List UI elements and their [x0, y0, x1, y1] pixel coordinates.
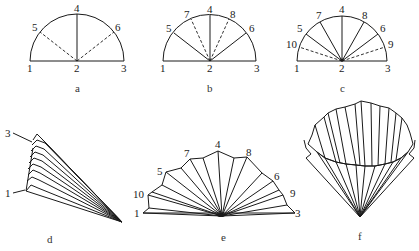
label-point-1: 1	[160, 62, 166, 74]
label-point-10: 10	[133, 188, 145, 200]
label-point-2: 2	[74, 62, 80, 74]
pleat-8	[27, 177, 122, 222]
label-point-1: 1	[294, 62, 300, 74]
label-point-5: 5	[157, 165, 163, 177]
cone-inner-rim	[317, 152, 408, 166]
label-point-8: 8	[230, 8, 236, 20]
apex	[217, 213, 225, 217]
label-point-6: 6	[249, 22, 255, 34]
cone-rim	[308, 101, 413, 166]
label-point-3: 3	[121, 62, 127, 74]
dashed-fold-2-5	[40, 32, 77, 61]
panel-b: 1 2 3 4 5 6 7 8 b	[160, 3, 260, 94]
label-point-9: 9	[388, 38, 394, 50]
label-point-2: 2	[207, 62, 213, 74]
leader-3	[13, 133, 32, 142]
label-point-3: 3	[254, 62, 260, 74]
label-point-8: 8	[246, 146, 252, 158]
label-point-6: 6	[115, 21, 121, 33]
panel-a: 1 2 3 4 5 6 a	[27, 2, 127, 94]
panel-d: 3 1 d	[5, 127, 122, 245]
panel-e: 1 10 5 7 4 8 6 9 3 e	[133, 138, 301, 243]
label-point-4: 4	[215, 138, 221, 150]
label-point-4: 4	[207, 3, 213, 15]
label-point-6: 6	[380, 22, 386, 34]
label-point-1: 1	[134, 207, 140, 219]
label-point-5: 5	[166, 22, 172, 34]
label-point-2: 2	[339, 62, 345, 74]
label-point-1: 1	[27, 62, 33, 74]
fold-line-2-6	[342, 34, 378, 61]
label-point-1: 1	[5, 187, 11, 199]
caption-d: d	[47, 233, 53, 245]
dashed-fold-2-8	[210, 19, 229, 61]
folding-diagram: 1 2 3 4 5 6 a 1 2 3 4 5 6 7 8 b 1 2	[0, 0, 419, 251]
label-point-3: 3	[295, 207, 301, 219]
panel-f: f	[304, 101, 415, 242]
fold-line-2-5	[306, 34, 342, 61]
fold-line-2-7	[320, 22, 342, 61]
label-point-5: 5	[297, 22, 303, 34]
caption-b: b	[207, 82, 213, 94]
fold-line-2-8	[342, 22, 364, 61]
label-point-6: 6	[274, 170, 280, 182]
label-point-3: 3	[385, 62, 391, 74]
leader-1	[13, 190, 25, 193]
label-point-10: 10	[286, 38, 298, 50]
label-point-7: 7	[316, 9, 322, 21]
label-point-7: 7	[184, 147, 190, 159]
label-point-5: 5	[32, 21, 38, 33]
fan-folds	[143, 151, 295, 216]
caption-a: a	[75, 82, 80, 94]
dashed-fold-2-7	[191, 19, 210, 61]
caption-f: f	[358, 230, 362, 242]
label-point-8: 8	[362, 9, 368, 21]
dashed-fold-2-6	[77, 32, 114, 61]
pleat-9	[26, 185, 122, 222]
fold-line-2-5	[174, 33, 210, 61]
panel-c: 1 2 3 4 5 6 7 8 9 10 c	[286, 3, 394, 94]
label-point-3: 3	[5, 127, 11, 139]
label-point-7: 7	[184, 8, 190, 20]
label-point-9: 9	[290, 187, 296, 199]
fold-line-2-6	[210, 33, 246, 61]
caption-c: c	[340, 82, 345, 94]
label-point-4: 4	[339, 3, 345, 15]
caption-e: e	[221, 231, 226, 243]
label-point-4: 4	[74, 2, 80, 14]
